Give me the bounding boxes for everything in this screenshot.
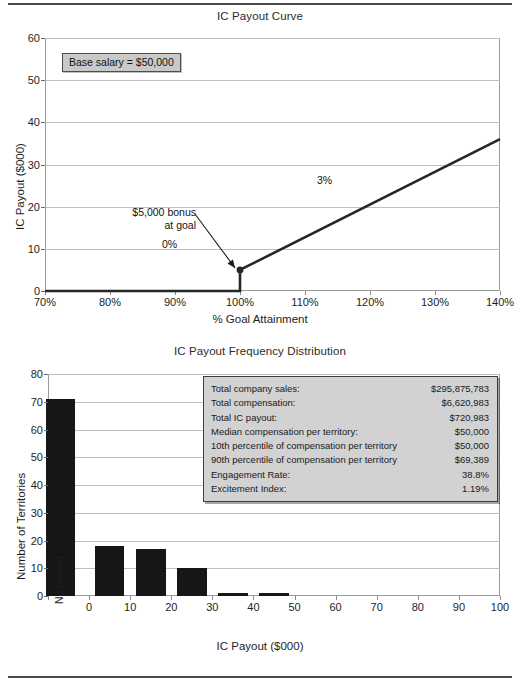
stat-key: Excitement Index:	[211, 482, 297, 496]
chart2-plot-area: 01020304050607080 No payout0102030405060…	[48, 374, 500, 596]
y-tick-mark	[44, 513, 48, 514]
y-tick-mark	[44, 402, 48, 403]
x-tick-label: 50	[288, 601, 300, 613]
gridline	[48, 374, 500, 375]
stat-row: Total IC payout:$720,983	[211, 411, 489, 425]
x-tick-mark	[336, 596, 337, 600]
x-tick-mark	[130, 596, 131, 600]
x-tick-mark	[377, 596, 378, 600]
ic-payout-frequency-chart: IC Payout Frequency Distribution 0102030…	[0, 342, 520, 677]
stat-key: Total IC payout:	[211, 411, 287, 425]
x-tick-label: 0	[86, 601, 92, 613]
bar	[136, 549, 166, 596]
stat-value: $720,983	[449, 411, 489, 425]
chart2-title: IC Payout Frequency Distribution	[0, 345, 520, 357]
bonus-annotation-line2: at goal	[71, 219, 196, 232]
x-tick-label: 70%	[34, 296, 56, 308]
stat-row: Engagement Rate:38.8%	[211, 468, 489, 482]
x-tick-label: 90	[453, 601, 465, 613]
y-tick-label: 60	[31, 424, 43, 436]
chart2-x-axis-label: IC Payout ($000)	[0, 640, 520, 652]
stat-row: Median compensation per territory:$50,00…	[211, 425, 489, 439]
x-tick-mark	[500, 596, 501, 600]
x-tick-label: 120%	[356, 296, 384, 308]
x-tick-label: 60	[330, 601, 342, 613]
x-tick-label: 30	[206, 601, 218, 613]
x-tick-mark	[212, 596, 213, 600]
stat-value: 38.8%	[462, 468, 489, 482]
chart1-plot-area: 0102030405060 70%80%90%100%110%120%130%1…	[45, 38, 500, 291]
goal-bonus-marker	[237, 267, 244, 274]
y-tick-label: 40	[31, 479, 43, 491]
x-tick-label: 10	[124, 601, 136, 613]
stat-row: 10th percentile of compensation per terr…	[211, 439, 489, 453]
stat-row: Excitement Index:1.19%	[211, 482, 489, 496]
y-tick-mark	[44, 374, 48, 375]
chart1-title: IC Payout Curve	[0, 10, 520, 22]
y-tick-mark	[44, 485, 48, 486]
y-tick-label: 80	[31, 368, 43, 380]
x-tick-mark	[435, 291, 436, 295]
stat-key: Total company sales:	[211, 382, 310, 396]
y-tick-mark	[44, 430, 48, 431]
x-tick-label-no-payout: No payout	[53, 556, 65, 604]
y-tick-label: 20	[31, 535, 43, 547]
x-tick-mark	[500, 291, 501, 295]
x-tick-label: 40	[247, 601, 259, 613]
gridline	[48, 513, 500, 514]
stat-key: 90th percentile of compensation per terr…	[211, 453, 407, 467]
x-tick-mark	[305, 291, 306, 295]
x-tick-label: 90%	[164, 296, 186, 308]
x-tick-mark	[171, 596, 172, 600]
stat-value: $295,875,783	[431, 382, 489, 396]
y-tick-label: 30	[31, 507, 43, 519]
bar	[218, 593, 248, 596]
x-tick-label: 80%	[99, 296, 121, 308]
x-tick-label: 20	[165, 601, 177, 613]
stat-row: Total compensation:$6,620,983	[211, 396, 489, 410]
base-salary-callout: Base salary = $50,000	[62, 53, 181, 72]
y-tick-label: 30	[28, 159, 40, 171]
bar	[177, 568, 207, 596]
bar	[95, 546, 125, 596]
x-tick-label: 110%	[291, 296, 318, 308]
summary-stats-box: Total company sales:$295,875,783Total co…	[203, 376, 498, 502]
x-tick-label: 100	[491, 601, 509, 613]
stat-value: $69,389	[455, 453, 489, 467]
bonus-annotation-leader-line	[195, 214, 235, 268]
y-tick-mark	[44, 568, 48, 569]
bonus-annotation: $5,000 bonus at goal	[71, 206, 196, 232]
stat-value: $6,620,983	[441, 396, 489, 410]
y-tick-mark	[44, 457, 48, 458]
figure-page: IC Payout Curve 0102030405060 70%80%90%1…	[0, 0, 520, 685]
chart1-line-series	[45, 38, 500, 291]
chart2-y-axis-label: Number of Territories	[15, 473, 27, 580]
bonus-annotation-arrowhead	[228, 259, 235, 267]
x-tick-label: 70	[371, 601, 383, 613]
x-tick-mark	[459, 596, 460, 600]
y-tick-label: 50	[31, 451, 43, 463]
slope-rate-label: 3%	[317, 174, 332, 186]
ic-payout-curve-chart: IC Payout Curve 0102030405060 70%80%90%1…	[0, 8, 520, 338]
x-tick-label: 100%	[226, 296, 254, 308]
stat-key: Median compensation per territory:	[211, 425, 368, 439]
stat-value: $50,000	[455, 425, 489, 439]
stat-row: 90th percentile of compensation per terr…	[211, 453, 489, 467]
gridline	[48, 541, 500, 542]
x-tick-mark	[48, 596, 49, 600]
stat-value: 1.19%	[462, 482, 489, 496]
flat-rate-label: 0%	[162, 238, 177, 250]
chart1-y-axis-label: IC Payout ($000)	[14, 143, 26, 230]
x-tick-mark	[89, 596, 90, 600]
y-tick-label: 40	[28, 116, 40, 128]
x-tick-mark	[370, 291, 371, 295]
y-tick-label: 20	[28, 201, 40, 213]
top-divider-rule	[8, 3, 512, 5]
x-tick-mark	[295, 596, 296, 600]
bonus-annotation-line1: $5,000 bonus	[71, 206, 196, 219]
y-tick-label: 60	[28, 32, 40, 44]
y-tick-label: 70	[31, 396, 43, 408]
x-tick-mark	[253, 596, 254, 600]
stat-key: 10th percentile of compensation per terr…	[211, 439, 407, 453]
y-tick-label: 10	[28, 243, 40, 255]
